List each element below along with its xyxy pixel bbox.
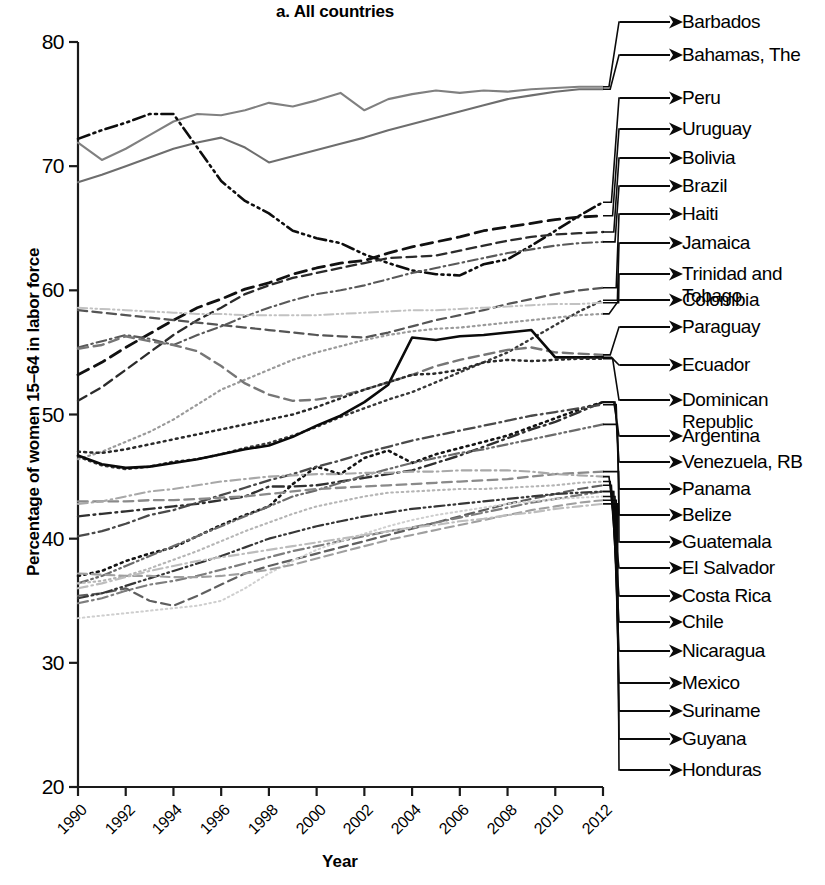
series-line — [78, 500, 603, 577]
series-line — [78, 491, 603, 598]
legend-label-mexico: Mexico — [682, 672, 740, 694]
legend-connector — [603, 22, 620, 87]
legend-label-ecuador: Ecuador — [682, 354, 750, 376]
legend-label-belize: Belize — [682, 504, 731, 526]
series-line — [78, 300, 603, 469]
legend-arrow-head — [669, 536, 683, 549]
legend-arrow-head — [669, 49, 683, 62]
legend-label-venezuela-rb: Venezuela, RB — [682, 451, 803, 473]
legend-label-bahamas-the: Bahamas, The — [682, 44, 800, 66]
legend-arrow-head — [669, 321, 683, 334]
legend-label-argentina: Argentina — [682, 425, 760, 447]
series-line — [78, 303, 603, 315]
legend-label-el-salvador: El Salvador — [682, 557, 775, 579]
legend-label-guatemala: Guatemala — [682, 531, 771, 553]
legend-arrow-head — [669, 268, 683, 281]
legend-label-paraguay: Paraguay — [682, 316, 760, 338]
legend-label-suriname: Suriname — [682, 700, 760, 722]
legend-arrow-head — [669, 764, 683, 777]
legend-arrow-head — [669, 483, 683, 496]
legend-label-chile: Chile — [682, 611, 723, 633]
series-line — [78, 359, 603, 453]
legend-arrow-head — [669, 123, 683, 136]
legend-arrow-head — [669, 16, 683, 29]
legend-arrow-head — [669, 359, 683, 372]
legend-arrow-head — [669, 180, 683, 193]
legend-arrow-head — [669, 456, 683, 469]
series-line — [78, 216, 603, 375]
legend-connector — [603, 327, 620, 355]
legend-arrow-head — [669, 394, 683, 407]
series-line — [78, 87, 603, 160]
series-line — [78, 496, 603, 618]
legend-arrow-head — [669, 294, 683, 307]
legend-label-peru: Peru — [682, 87, 721, 109]
legend-arrow-head — [669, 509, 683, 522]
legend-arrow-head — [669, 208, 683, 221]
series-line — [78, 424, 603, 583]
legend-label-costa-rica: Costa Rica — [682, 585, 771, 607]
legend-connector — [603, 504, 620, 770]
legend-connector — [603, 359, 620, 400]
legend-arrow-head — [669, 430, 683, 443]
legend-label-honduras: Honduras — [682, 759, 761, 781]
legend-arrow-head — [669, 92, 683, 105]
legend-arrow-head — [669, 590, 683, 603]
series-line — [78, 485, 603, 605]
legend-label-panama: Panama — [682, 478, 750, 500]
legend-label-nicaragua: Nicaragua — [682, 640, 765, 662]
series-line — [78, 232, 603, 401]
legend-arrow-head — [669, 677, 683, 690]
legend-label-brazil: Brazil — [682, 175, 727, 197]
legend-arrow-head — [669, 645, 683, 658]
legend-arrow-head — [669, 562, 683, 575]
legend-arrow-head — [669, 733, 683, 746]
legend-label-barbados: Barbados — [682, 11, 760, 33]
legend-arrow-head — [669, 152, 683, 165]
legend-label-bolivia: Bolivia — [682, 147, 735, 169]
legend-arrow-head — [669, 237, 683, 250]
legend-label-colombia: Colombia — [682, 289, 759, 311]
series-line — [78, 482, 603, 584]
legend-label-uruguay: Uruguay — [682, 118, 751, 140]
series-line — [78, 402, 603, 576]
legend-label-jamaica: Jamaica — [682, 232, 750, 254]
series-line — [78, 89, 603, 182]
legend-label-guyana: Guyana — [682, 728, 746, 750]
legend-label-haiti: Haiti — [682, 203, 718, 225]
legend-arrow-head — [669, 705, 683, 718]
series-line — [78, 114, 603, 275]
legend-arrow-head — [669, 616, 683, 629]
chart-figure: a. All countries Percentage of women 15–… — [0, 0, 825, 885]
